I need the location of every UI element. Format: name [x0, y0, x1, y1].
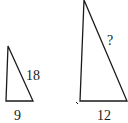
small-base-label: 9	[14, 108, 21, 123]
large-triangle-shape	[80, 0, 127, 101]
small-triangle: 18 9	[6, 46, 40, 123]
small-hypotenuse-label: 18	[26, 68, 40, 83]
large-base-label: 12	[97, 108, 111, 123]
large-triangle: ? 12	[76, 0, 127, 123]
diagram-canvas: 18 9 ? 12	[0, 0, 128, 123]
large-hypotenuse-label: ?	[107, 33, 113, 48]
tick-mark	[76, 102, 78, 104]
